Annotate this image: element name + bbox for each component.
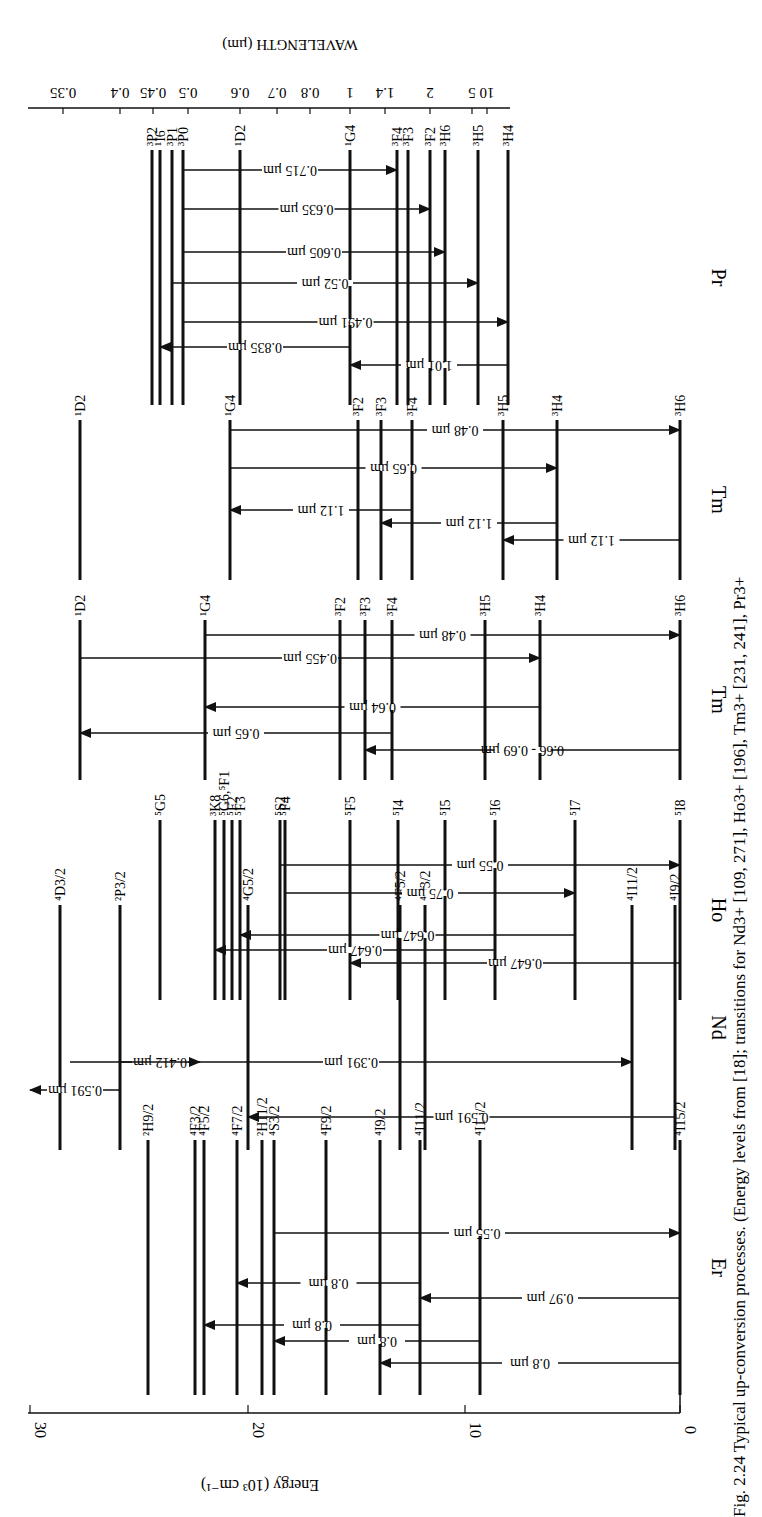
level-label: ⁴I11/2	[625, 867, 640, 901]
level-label: ³F3	[401, 127, 416, 146]
level-label: ³H4	[501, 125, 516, 146]
transition-label: 0.66 - 0.69 µm	[481, 743, 564, 758]
level-label: ⁵I5	[438, 799, 453, 816]
level-label: ³H6	[438, 125, 453, 146]
ion-section-pr: ³P2¹I6³P1³P0¹D2¹G4³F4³F3³F2³H6³H5³H40.71…	[145, 125, 730, 405]
level-label: ⁵I6	[488, 799, 503, 816]
transition-label: 1.12 µm	[297, 503, 344, 518]
level-label: ⁴D3/2	[53, 868, 68, 901]
level-label: ⁴F9/2	[319, 1105, 334, 1136]
level-label: ³F3	[358, 597, 373, 616]
level-label: ³F2	[351, 397, 366, 416]
level-label: ³P0	[176, 127, 191, 146]
level-label: ¹G4	[343, 125, 358, 146]
wavelength-tick-label: 2	[426, 85, 434, 101]
energy-axis-label: Energy (10³ cm⁻¹)	[201, 1476, 319, 1494]
level-label: ³F2	[423, 127, 438, 146]
level-label: ⁴S3/2	[267, 1105, 282, 1136]
transition-label: 0.48 µm	[419, 628, 466, 643]
wavelength-tick-label: 0.6	[230, 85, 249, 101]
transition-label: 0.491 µm	[318, 315, 372, 330]
energy-axis: 3020100Energy (10³ cm⁻¹)	[28, 1390, 699, 1494]
transition-label: 0.647 µm	[328, 943, 382, 958]
transition-label: 1.12 µm	[568, 533, 615, 548]
figure-caption: Fig. 2.24 Typical up-conversion processe…	[730, 577, 749, 1517]
transition-label: 1.01 µm	[405, 358, 452, 373]
transition-label: 0.48 µm	[431, 423, 478, 438]
level-label: ⁴F5/2	[197, 1105, 212, 1136]
energy-tick-label: 30	[32, 1422, 49, 1438]
transition-label: 0.65 µm	[212, 726, 259, 741]
level-label: ⁵G5	[153, 794, 168, 816]
transition-label: 0.647 µm	[380, 928, 434, 943]
ion-section-tm: ¹D2¹G4³F2³F3³F4³H5³H4³H60.48 µm0.455 µm0…	[73, 595, 730, 780]
ion-name: Ho	[708, 898, 730, 922]
wavelength-tick-label: 10	[480, 85, 495, 101]
wavelength-tick-label: 0.7	[267, 85, 286, 101]
ion-name: Tm	[708, 486, 730, 514]
wavelength-axis: 0.350.40.450.50.60.70.811.42510WAVELENGT…	[28, 36, 510, 114]
wavelength-axis-label: WAVELENGTH (µm)	[222, 36, 357, 53]
ion-name: Pr	[708, 269, 730, 287]
ion-sections: ²H9/2⁴F3/2⁴F5/2⁴F7/2²H11/2⁴S3/2⁴F9/2⁴I9/…	[30, 125, 730, 1395]
ion-section-nd: ⁴D3/2²P3/2⁴G5/2⁴F5/2⁴F3/2⁴I11/2⁴I9/20.41…	[30, 867, 730, 1150]
ion-section-er: ²H9/2⁴F3/2⁴F5/2⁴F7/2²H11/2⁴S3/2⁴F9/2⁴I9/…	[141, 1097, 730, 1395]
transition-label: 0.8 µm	[357, 1334, 397, 1349]
transition-label: 0.55 µm	[456, 858, 503, 873]
level-label: ⁴G5/2	[241, 868, 256, 901]
transition-label: 0.64 µm	[349, 700, 396, 715]
energy-tick-label: 0	[682, 1426, 699, 1434]
level-label: ⁵I8	[673, 799, 688, 816]
level-label: ⁴I9/2	[373, 1109, 388, 1136]
wavelength-tick-label: 0.45	[140, 85, 166, 101]
transition-label: 0.52 µm	[301, 276, 348, 291]
level-label: ⁵F5	[343, 796, 358, 816]
level-label: ²P3/2	[113, 871, 128, 901]
level-label: ⁵I4	[391, 799, 406, 816]
wavelength-tick-label: 0.5	[179, 85, 198, 101]
energy-tick-label: 10	[467, 1422, 484, 1438]
level-label: ¹D2	[233, 125, 248, 146]
transition-label: 0.8 µm	[292, 1318, 332, 1333]
wavelength-tick-label: 0.4	[110, 85, 129, 101]
transition-label: 0.65 µm	[370, 461, 417, 476]
level-label: ³H5	[478, 595, 493, 616]
ion-name: Er	[708, 1258, 730, 1277]
level-label: ³H4	[550, 395, 565, 416]
wavelength-tick-label: 0.35	[50, 85, 76, 101]
level-label: ¹D2	[73, 595, 88, 616]
transition-label: 0.591 µm	[48, 1083, 102, 1098]
transition-label: 0.97 µm	[526, 1291, 573, 1306]
level-label: ⁵F3	[233, 796, 248, 816]
ion-section-tm: ¹D2¹G4³F2³F3³F4³H5³H4³H60.48 µm0.65 µm1.…	[73, 395, 730, 580]
energy-level-diagram: 0.350.40.450.50.60.70.811.42510WAVELENGT…	[0, 0, 762, 1517]
transition-label: 0.635 µm	[279, 202, 333, 217]
wavelength-tick-label: 0.8	[301, 85, 320, 101]
transition-label: 0.391 µm	[324, 1055, 378, 1070]
wavelength-tick-label: 1.4	[375, 85, 394, 101]
level-label: ³H6	[673, 395, 688, 416]
level-label: ³H5	[471, 125, 486, 146]
level-label: ⁵I7	[568, 799, 583, 816]
caption-text: Fig. 2.24 Typical up-conversion processe…	[730, 577, 749, 1517]
transition-label: 0.75 µm	[406, 886, 453, 901]
transition-label: 1.12 µm	[445, 516, 492, 531]
level-label: ¹G4	[198, 595, 213, 616]
level-label: ¹G4	[223, 395, 238, 416]
transition-label: 0.715 µm	[263, 163, 317, 178]
transition-label: 0.8 µm	[308, 1276, 348, 1291]
transition-label: 0.591 µm	[434, 1110, 488, 1125]
transition-label: 0.605 µm	[287, 245, 341, 260]
transition-label: 0.835 µm	[228, 340, 282, 355]
ion-section-ho: ⁵G5³K8⁵G6,⁵F1⁵F2⁵F3⁵S2⁵F4⁵F5⁵I4⁵I5⁵I6⁵I7…	[153, 771, 730, 1000]
level-label: ³F3	[374, 397, 389, 416]
transition-label: 0.8 µm	[510, 1356, 550, 1371]
ion-name: Nd	[708, 1015, 730, 1039]
transition-label: 0.55 µm	[453, 1226, 500, 1241]
level-label: ⁵F4	[278, 796, 293, 816]
level-label: ³F2	[333, 597, 348, 616]
transition-label: 0.647 µm	[488, 956, 542, 971]
wavelength-tick-label: 1	[346, 85, 354, 101]
ion-name: Tm	[708, 686, 730, 714]
level-label: ³H6	[673, 595, 688, 616]
